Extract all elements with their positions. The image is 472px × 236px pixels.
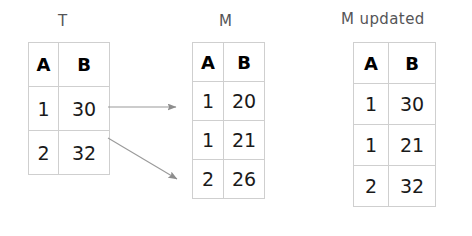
cell-a: 1 xyxy=(354,84,389,125)
arrow-row2-to-m-row3 xyxy=(108,138,177,179)
cell-a: 1 xyxy=(354,125,389,166)
cell-b: 20 xyxy=(224,82,265,121)
table-row: 1 21 xyxy=(354,125,436,166)
cell-b: 30 xyxy=(389,84,436,125)
table-row: 2 32 xyxy=(354,166,436,207)
table-label-m: M xyxy=(219,14,232,29)
cell-b: 32 xyxy=(59,131,110,175)
cell-b: 30 xyxy=(59,87,110,131)
cell-b: 21 xyxy=(389,125,436,166)
column-header-b: B xyxy=(59,43,110,87)
table-row: 1 30 xyxy=(29,87,110,131)
column-header-b: B xyxy=(389,43,436,84)
diagram-canvas: T M M updated A B 1 30 2 32 A B 1 20 1 2… xyxy=(0,0,472,236)
table-label-m-updated: M updated xyxy=(341,12,425,27)
column-header-a: A xyxy=(354,43,389,84)
column-header-b: B xyxy=(224,43,265,82)
table-label-t: T xyxy=(58,14,68,29)
table-row: 1 20 xyxy=(193,82,265,121)
table-row: 2 32 xyxy=(29,131,110,175)
cell-a: 2 xyxy=(29,131,59,175)
table-m: A B 1 20 1 21 2 26 xyxy=(192,42,265,199)
column-header-a: A xyxy=(29,43,59,87)
cell-a: 1 xyxy=(29,87,59,131)
table-row: 1 21 xyxy=(193,121,265,160)
table-row: 2 26 xyxy=(193,160,265,199)
cell-a: 1 xyxy=(193,121,224,160)
cell-b: 21 xyxy=(224,121,265,160)
cell-a: 2 xyxy=(193,160,224,199)
table-row: A B xyxy=(193,43,265,82)
cell-a: 2 xyxy=(354,166,389,207)
cell-b: 26 xyxy=(224,160,265,199)
table-m-updated: A B 1 30 1 21 2 32 xyxy=(353,42,436,207)
cell-b: 32 xyxy=(389,166,436,207)
cell-a: 1 xyxy=(193,82,224,121)
table-row: A B xyxy=(354,43,436,84)
table-t: A B 1 30 2 32 xyxy=(28,42,110,175)
table-row: A B xyxy=(29,43,110,87)
column-header-a: A xyxy=(193,43,224,82)
table-row: 1 30 xyxy=(354,84,436,125)
